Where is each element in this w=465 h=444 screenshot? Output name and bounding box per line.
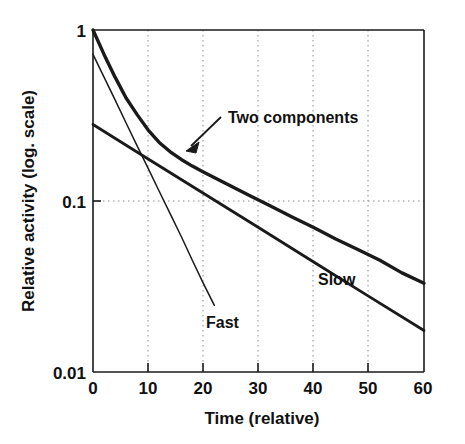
- xtick-label-30: 30: [249, 379, 268, 398]
- log-decay-line-chart: Two components Fast Slow 1 0.1 0.01 0 10…: [0, 0, 465, 444]
- xtick-label-20: 20: [194, 379, 213, 398]
- xtick-label-10: 10: [139, 379, 158, 398]
- ytick-label-0.1: 0.1: [62, 193, 86, 212]
- y-axis-title: Relative activity (log. scale): [19, 90, 38, 312]
- xtick-label-50: 50: [359, 379, 378, 398]
- x-axis-title: Time (relative): [205, 409, 320, 428]
- xtick-label-0: 0: [88, 379, 97, 398]
- annotation-fast: Fast: [206, 314, 240, 331]
- xtick-label-60: 60: [414, 379, 433, 398]
- annotation-slow: Slow: [318, 271, 356, 288]
- ytick-label-1: 1: [77, 22, 86, 41]
- chart-figure: Two components Fast Slow 1 0.1 0.01 0 10…: [0, 0, 465, 444]
- xtick-label-40: 40: [304, 379, 323, 398]
- ytick-label-0.01: 0.01: [53, 364, 86, 383]
- annotation-two-components: Two components: [228, 109, 358, 126]
